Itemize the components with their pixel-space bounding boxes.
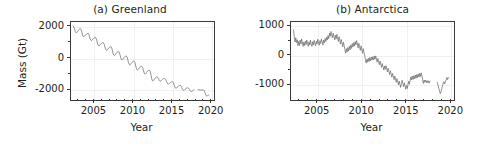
x-tick-mark-minor — [387, 99, 388, 101]
y-tick-mark — [67, 57, 71, 58]
x-tick-mark-minor — [187, 99, 188, 101]
x-tick-mark — [316, 99, 317, 103]
x-tick-mark-minor — [109, 99, 110, 101]
x-tick-mark-minor — [140, 99, 141, 101]
y-tick-mark-minor — [288, 40, 290, 41]
x-tick-mark-minor — [163, 99, 164, 101]
x-tick-label: 2020 — [198, 106, 223, 116]
x-tick-mark-minor — [423, 99, 424, 101]
x-tick-mark — [210, 99, 211, 103]
y-tick-label: -1000 — [255, 79, 284, 89]
x-axis-title-antarctica: Year — [360, 121, 382, 133]
x-tick-mark-minor — [370, 99, 371, 101]
x-tick-mark-minor — [432, 99, 433, 101]
x-tick-mark-minor — [101, 99, 102, 101]
x-tick-mark-minor — [414, 99, 415, 101]
y-tick-mark — [67, 89, 71, 90]
x-tick-mark-minor — [343, 99, 344, 101]
x-tick-mark-minor — [179, 99, 180, 101]
x-tick-label: 2015 — [393, 106, 418, 116]
y-tick-label: 2000 — [39, 21, 64, 31]
y-tick-label: 1000 — [259, 20, 284, 30]
x-tick-mark-minor — [148, 99, 149, 101]
x-tick-mark-minor — [85, 99, 86, 101]
y-tick-mark-minor — [288, 69, 290, 70]
x-tick-label: 2015 — [159, 106, 184, 116]
y-axis-title-greenland: Mass (Gt) — [16, 38, 28, 88]
x-tick-mark-minor — [202, 99, 203, 101]
figure-root: (a) Greenland Mass (Gt) 20000-2000 20052… — [0, 0, 477, 149]
y-tick-mark — [287, 54, 291, 55]
y-tick-label: -2000 — [35, 84, 64, 94]
x-tick-mark — [450, 99, 451, 103]
x-tick-label: 2005 — [304, 106, 329, 116]
x-tick-mark-minor — [155, 99, 156, 101]
x-axis-title-greenland: Year — [130, 121, 152, 133]
x-tick-mark — [93, 99, 94, 103]
x-tick-mark-minor — [352, 99, 353, 101]
series-line-greenland — [73, 26, 209, 96]
chart-panel-greenland: (a) Greenland Mass (Gt) 20000-2000 20052… — [0, 0, 238, 149]
x-tick-mark — [171, 99, 172, 103]
panel-title-greenland: (a) Greenland — [0, 3, 238, 16]
y-tick-mark — [67, 25, 71, 26]
x-tick-mark-minor — [379, 99, 380, 101]
y-tick-mark — [287, 84, 291, 85]
x-tick-mark-minor — [334, 99, 335, 101]
x-tick-label: 2005 — [81, 106, 106, 116]
x-tick-mark-minor — [77, 99, 78, 101]
chart-panel-antarctica: (b) Antarctica 10000-1000 20052010201520… — [238, 0, 477, 149]
x-tick-mark-minor — [307, 99, 308, 101]
series-antarctica — [291, 22, 454, 100]
x-tick-mark-minor — [298, 99, 299, 101]
y-tick-mark-minor — [68, 73, 70, 74]
series-line-antarctica — [294, 30, 449, 94]
y-tick-mark-minor — [68, 41, 70, 42]
x-tick-mark-minor — [116, 99, 117, 101]
x-tick-label: 2010 — [120, 106, 145, 116]
series-greenland — [71, 22, 214, 100]
x-tick-label: 2010 — [349, 106, 374, 116]
x-tick-mark-minor — [195, 99, 196, 101]
x-tick-mark — [132, 99, 133, 103]
y-tick-label: 0 — [278, 50, 284, 60]
panel-title-antarctica: (b) Antarctica — [238, 3, 477, 16]
plot-area-antarctica — [290, 21, 455, 101]
y-tick-mark — [287, 25, 291, 26]
x-tick-mark — [405, 99, 406, 103]
x-tick-label: 2020 — [438, 106, 463, 116]
x-tick-mark-minor — [325, 99, 326, 101]
x-tick-mark — [361, 99, 362, 103]
y-tick-label: 0 — [58, 53, 64, 63]
x-tick-mark-minor — [396, 99, 397, 101]
plot-area-greenland — [70, 21, 215, 101]
x-tick-mark-minor — [124, 99, 125, 101]
x-tick-mark-minor — [441, 99, 442, 101]
